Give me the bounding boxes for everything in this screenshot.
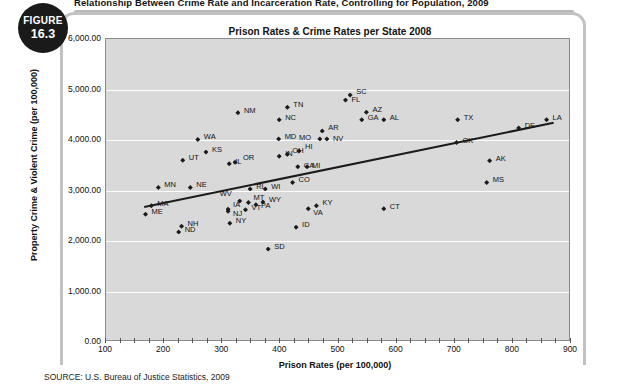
data-point-label: WI <box>271 183 280 191</box>
data-point-label: ID <box>302 221 310 229</box>
data-point-label: GA <box>368 114 379 122</box>
x-tick-label: 800 <box>505 344 519 354</box>
data-point-marker <box>188 185 193 190</box>
x-tick-mark <box>570 338 571 343</box>
data-point-label: VA <box>313 209 322 217</box>
data-point-label: AL <box>390 114 399 122</box>
x-tick-mark <box>541 338 542 343</box>
data-point-label: TX <box>464 114 474 122</box>
data-point-label: FL <box>351 96 360 104</box>
x-tick-mark <box>207 338 208 343</box>
y-tick-label: 0.00 <box>47 336 101 346</box>
data-point-label: MA <box>157 200 168 208</box>
x-tick-mark <box>512 338 513 343</box>
data-point-label: NE <box>196 181 206 189</box>
data-point-label: MO <box>299 134 311 142</box>
data-point-label: MI <box>312 162 320 170</box>
data-point-label: TN <box>293 101 303 109</box>
data-point-marker <box>195 137 200 142</box>
data-point-label: UT <box>189 154 199 162</box>
x-tick-mark <box>468 338 469 343</box>
x-tick-mark <box>425 338 426 343</box>
x-tick-mark <box>497 338 498 343</box>
x-tick-mark <box>555 338 556 343</box>
data-point-marker <box>285 105 290 110</box>
x-tick-mark <box>367 338 368 343</box>
data-point-marker <box>143 212 148 217</box>
data-point-marker <box>180 158 185 163</box>
data-point-label: SD <box>274 243 284 251</box>
x-tick-label: 500 <box>330 344 344 354</box>
x-tick-mark <box>352 338 353 343</box>
data-point-label: OK <box>462 137 473 145</box>
figure-badge-number: 16.3 <box>31 28 55 41</box>
data-point-label: LA <box>553 114 562 122</box>
gridline <box>106 90 569 91</box>
x-tick-mark <box>236 338 237 343</box>
x-tick-mark <box>323 338 324 343</box>
y-axis-ticks: 0.001,000.002,000.003,000.004,000.005,00… <box>44 38 101 341</box>
data-point-label: WA <box>204 133 216 141</box>
data-point-marker <box>381 117 386 122</box>
data-point-label: NM <box>244 107 256 115</box>
data-point-marker <box>294 225 299 230</box>
data-point-marker <box>487 158 492 163</box>
data-point-marker <box>179 224 184 229</box>
data-point-marker <box>203 150 208 155</box>
data-point-marker <box>343 98 348 103</box>
data-point-label: HI <box>305 143 313 151</box>
x-tick-label: 900 <box>563 344 577 354</box>
data-point-marker <box>320 128 325 133</box>
data-point-marker <box>243 207 248 212</box>
x-tick-mark <box>439 338 440 343</box>
data-point-label: NC <box>285 114 296 122</box>
y-tick-label: 3,000.00 <box>47 185 101 195</box>
data-point-label: CO <box>299 176 310 184</box>
y-tick-label: 5,000.00 <box>47 84 101 94</box>
data-point-label: KS <box>212 146 222 154</box>
data-point-label: AZ <box>372 106 382 114</box>
x-tick-mark <box>120 338 121 343</box>
x-tick-mark <box>149 338 150 343</box>
data-point-label: WV <box>220 190 232 198</box>
data-point-label: RI <box>256 183 264 191</box>
y-tick-label: 4,000.00 <box>47 134 101 144</box>
gridline <box>106 292 569 293</box>
data-point-marker <box>544 117 549 122</box>
x-tick-label: 600 <box>389 344 403 354</box>
x-tick-mark <box>483 338 484 343</box>
plot-area: MAMEMNNENHNDUTWAKSNMILORWVIANJNYMTRIVTPA… <box>105 38 570 341</box>
x-tick-mark <box>308 338 309 343</box>
x-tick-mark <box>338 338 339 343</box>
data-point-label: WY <box>269 196 281 204</box>
data-point-marker <box>266 247 271 252</box>
data-point-label: ND <box>185 226 196 234</box>
data-point-marker <box>277 117 282 122</box>
data-point-marker <box>277 154 282 159</box>
data-point-label: NV <box>333 135 343 143</box>
x-tick-label: 300 <box>214 344 228 354</box>
data-point-label: DE <box>525 122 535 130</box>
y-tick-label: 1,000.00 <box>47 286 101 296</box>
gridline <box>106 241 569 242</box>
textbook-figure-page: Relationship Between Crime Rate and Inca… <box>0 0 617 384</box>
x-tick-mark <box>192 338 193 343</box>
x-tick-mark <box>105 338 106 343</box>
data-point-label: MD <box>285 133 297 141</box>
data-point-label: OR <box>243 154 254 162</box>
scatter-chart: Prison Rates & Crime Rates per State 200… <box>0 0 617 384</box>
data-point-label: ME <box>152 208 163 216</box>
source-note: SOURCE: U.S. Bureau of Justice Statistic… <box>44 372 230 382</box>
data-point-label: MN <box>164 181 176 189</box>
data-point-label: IA <box>233 201 240 209</box>
x-tick-mark <box>221 338 222 343</box>
data-point-label: NY <box>236 217 246 225</box>
data-point-label: MS <box>493 176 504 184</box>
x-tick-label: 400 <box>272 344 286 354</box>
x-tick-mark <box>294 338 295 343</box>
data-point-marker <box>290 180 295 185</box>
figure-badge-word: FIGURE <box>23 16 63 26</box>
data-point-marker <box>295 164 300 169</box>
x-tick-mark <box>163 338 164 343</box>
chart-title: Prison Rates & Crime Rates per State 200… <box>160 26 500 37</box>
